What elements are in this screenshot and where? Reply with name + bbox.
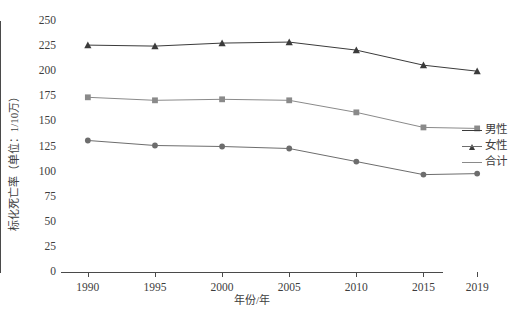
data-point [474,171,480,177]
series-女性 [85,138,480,178]
data-point [421,172,427,178]
x-axis-title: 年份/年 [61,291,443,307]
y-tick-label: 0 [22,266,56,278]
y-tick-label: 50 [22,216,56,228]
y-tick-label: 75 [22,191,56,203]
y-tick-label: 25 [22,241,56,253]
y-tick-label: 175 [22,91,56,103]
y-tick-label: 150 [22,116,56,128]
data-point [353,159,359,165]
series-line [88,97,477,128]
y-tick-label: 225 [22,40,56,52]
y-tick-label: 200 [22,65,56,77]
legend-item-合计[interactable]: 合计 [462,154,520,170]
legend-label: 合计 [485,156,507,168]
x-tick-mark [222,272,223,277]
x-tick-mark [356,272,357,277]
legend: 男性女性合计 [462,122,520,170]
x-tick-mark [423,272,424,277]
series-合计 [85,94,480,131]
series-男性 [84,38,481,74]
y-tick-label: 100 [22,166,56,178]
y-axis-tick-labels: 0255075100125150175200225250 [22,0,56,322]
data-point [286,146,292,152]
series-line [88,42,477,71]
series-layer [61,21,504,272]
legend-item-男性[interactable]: 男性 [462,122,520,138]
data-point [85,94,91,100]
plot-area: 1990199520002005201020152019 [61,21,504,272]
series-line [88,140,477,174]
line-chart: 标化死亡率（单位：1/10万） 025507510012515017520022… [0,0,521,322]
legend-item-女性[interactable]: 女性 [462,138,520,154]
legend-label: 女性 [485,140,507,152]
data-point [219,96,225,102]
y-axis-line [0,21,1,273]
y-tick-label: 250 [22,15,56,27]
x-tick-label: 2019 [447,281,507,293]
legend-marker-icon [462,124,482,136]
legend-label: 男性 [485,124,507,136]
data-point [421,125,427,131]
x-axis-line [61,272,443,273]
x-tick-mark [88,272,89,277]
data-point [286,97,292,103]
y-tick-label: 125 [22,141,56,153]
x-tick-mark [155,272,156,277]
legend-marker-icon [462,140,482,152]
data-point [85,138,91,144]
data-point [353,109,359,115]
legend-marker-icon [462,156,482,168]
data-point [152,143,158,149]
data-point [219,144,225,150]
data-point [152,97,158,103]
x-tick-mark [289,272,290,277]
x-tick-mark [477,272,478,277]
